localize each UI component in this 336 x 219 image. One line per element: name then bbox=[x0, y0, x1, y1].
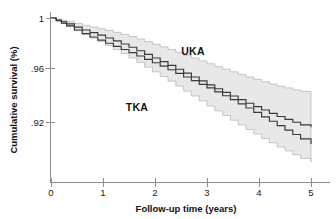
series-label-tka: TKA bbox=[126, 101, 149, 113]
x-tick-label-4: 4 bbox=[256, 187, 261, 198]
x-axis-title: Follow-up time (years) bbox=[136, 203, 237, 214]
y-tick-label-1: 1 bbox=[39, 13, 44, 24]
y-tick-label-96: .96 bbox=[31, 63, 44, 74]
survival-chart-figure: 1 .96 .92 0 1 2 3 4 5 Follow-up time (ye… bbox=[0, 0, 336, 219]
x-tick-label-0: 0 bbox=[48, 187, 53, 198]
y-tick-label-92: .92 bbox=[31, 117, 44, 128]
kaplan-meier-chart: 1 .96 .92 0 1 2 3 4 5 Follow-up time (ye… bbox=[0, 0, 336, 219]
series-label-uka: UKA bbox=[181, 45, 205, 57]
x-tick-label-3: 3 bbox=[204, 187, 209, 198]
x-tick-label-2: 2 bbox=[152, 187, 157, 198]
x-tick-label-1: 1 bbox=[100, 187, 105, 198]
x-tick-label-5: 5 bbox=[308, 187, 313, 198]
y-axis-title: Cumulative survival (%) bbox=[8, 46, 19, 153]
